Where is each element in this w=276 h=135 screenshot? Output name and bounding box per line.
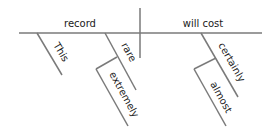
modifier-certainly: certainly xyxy=(216,41,247,84)
modifier-extremely: extremely xyxy=(107,70,141,120)
connector-line-almost xyxy=(194,58,216,69)
predicate-word: will cost xyxy=(183,18,224,29)
subject-word: record xyxy=(64,18,96,29)
modifier-rare: rare xyxy=(119,41,138,64)
sentence-diagram: record will cost This rare extremely cer… xyxy=(0,0,276,135)
connector-line-extremely xyxy=(96,57,117,69)
